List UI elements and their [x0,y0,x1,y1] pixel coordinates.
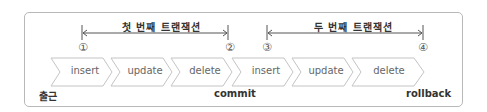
start-label: 출근 [39,88,57,103]
rollback-label: rollback [406,88,451,99]
step-label: update [127,65,162,76]
step-label: update [308,65,343,76]
commit-label: commit [214,88,256,99]
marker-4: ④ [418,41,428,54]
marker-1: ① [78,41,88,54]
step-label: delete [189,65,221,76]
step-label: delete [373,65,405,76]
transaction-1-title: 첫 번째 트랜잭션 [122,19,201,34]
marker-2: ② [225,41,235,54]
marker-3: ③ [262,41,272,54]
step-label: insert [71,65,100,76]
step-label: insert [252,65,281,76]
transaction-2-title: 두 번째 트랜잭션 [314,19,393,34]
